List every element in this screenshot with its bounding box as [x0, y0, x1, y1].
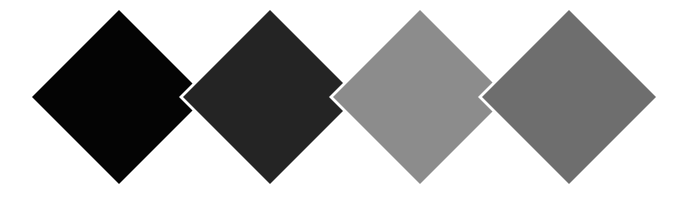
diamond-swatch-strip — [0, 0, 675, 199]
image-canvas — [0, 0, 675, 199]
